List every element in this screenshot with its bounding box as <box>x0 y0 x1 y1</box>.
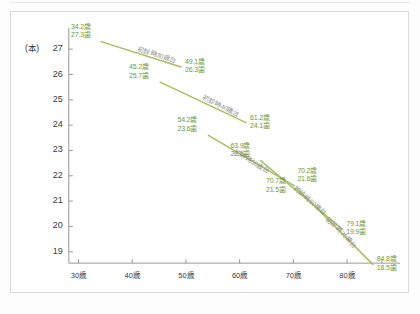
chart-page: (本) 192021222324252627 30歳40歳50歳60歳70歳80… <box>0 0 420 314</box>
data-point-teeth: 24.1歯 <box>250 122 270 131</box>
data-point-age: 54.2歳 <box>177 116 197 125</box>
data-point-teeth: 25.7歯 <box>129 72 149 81</box>
y-axis-tick-label: 27 <box>43 43 63 53</box>
data-point-label: 34.2歳27.3歯 <box>71 23 91 40</box>
data-point-label: 49.1歳26.3歯 <box>185 58 205 75</box>
data-point-label: 45.2歳25.7歯 <box>129 63 149 80</box>
y-axis-tick-label: 21 <box>43 195 63 205</box>
data-point-teeth: 21.5歯 <box>266 186 286 195</box>
y-axis-tick-label: 22 <box>43 170 63 180</box>
data-point-teeth: 26.3歯 <box>185 66 205 75</box>
x-axis-tick-label: 40歳 <box>112 269 152 280</box>
y-axis-tick-label: 25 <box>43 94 63 104</box>
data-point-age: 45.2歳 <box>129 63 149 72</box>
x-axis-tick-label: 30歳 <box>58 269 98 280</box>
data-point-age: 70.7歳 <box>266 177 286 186</box>
data-point-age: 61.2歳 <box>250 114 270 123</box>
data-point-label: 61.2歳24.1歯 <box>250 114 270 131</box>
data-point-label: 54.2歳23.6歯 <box>177 116 197 133</box>
y-axis-unit-label: (本) <box>25 41 39 53</box>
x-axis-tick-label: 50歳 <box>166 269 206 280</box>
data-point-age: 84.8歳 <box>377 255 397 264</box>
y-axis-tick-label: 24 <box>43 119 63 129</box>
y-axis-tick-label: 26 <box>43 69 63 79</box>
data-point-teeth: 18.5歯 <box>377 264 397 273</box>
y-axis-tick-label: 23 <box>43 144 63 154</box>
x-axis-tick-label: 80歳 <box>327 269 367 280</box>
data-point-teeth: 27.3歯 <box>71 31 91 40</box>
x-axis-tick-label: 70歳 <box>273 269 313 280</box>
data-point-label: 70.7歳21.5歯 <box>266 177 286 194</box>
data-point-teeth: 21.6歯 <box>297 175 317 184</box>
data-point-label: 84.8歳18.5歯 <box>377 255 397 272</box>
y-axis-tick-label: 19 <box>43 246 63 256</box>
chart-plot-svg <box>0 0 420 314</box>
data-point-age: 34.2歳 <box>71 23 91 32</box>
data-point-teeth: 23.6歯 <box>177 125 197 134</box>
x-axis-tick-label: 60歳 <box>220 269 260 280</box>
data-point-label: 70.2歳21.6歯 <box>297 167 317 184</box>
y-axis-tick-label: 20 <box>43 220 63 230</box>
